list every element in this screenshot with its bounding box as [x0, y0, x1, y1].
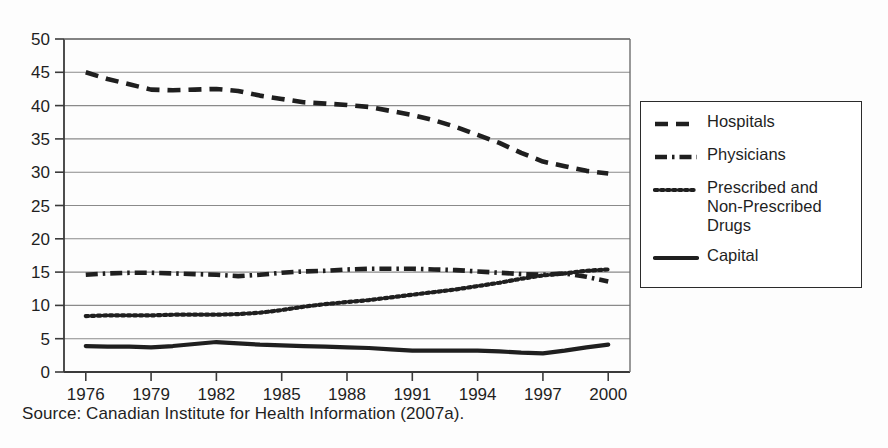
x-axis-tick-label: 1979 — [132, 385, 170, 400]
y-axis-tick-label: 10 — [31, 296, 50, 315]
x-axis-tick-labels: 197619791982198519881991199419972000 — [67, 385, 627, 400]
y-axis-tick-label: 40 — [31, 97, 50, 116]
data-series-group — [86, 72, 608, 353]
legend-item[interactable]: Physicians — [653, 145, 853, 167]
chart-legend: HospitalsPhysiciansPrescribed and Non-Pr… — [640, 101, 862, 288]
y-axis-tick-label: 30 — [31, 163, 50, 182]
x-axis-tick-label: 1988 — [328, 385, 366, 400]
y-axis-tick-label: 50 — [31, 30, 50, 49]
series-line-hospitals — [86, 72, 608, 173]
y-axis-tick-label: 20 — [31, 230, 50, 249]
series-line-capital — [86, 342, 608, 353]
dashed-line-sample-icon — [653, 114, 699, 134]
y-axis-tick-label: 15 — [31, 263, 50, 282]
x-axis-tick-label: 1976 — [67, 385, 105, 400]
legend-item-label: Hospitals — [707, 112, 775, 131]
legend-item[interactable]: Prescribed and Non-Prescribed Drugs — [653, 178, 853, 235]
y-axis-tick-label: 45 — [31, 63, 50, 82]
x-axis-tick-label: 1997 — [524, 385, 562, 400]
gridlines — [64, 39, 630, 339]
y-axis-tick-label: 5 — [41, 330, 50, 349]
legend-item[interactable]: Hospitals — [653, 112, 853, 134]
legend-item-label: Physicians — [707, 145, 786, 164]
x-axis-tick-label: 1982 — [197, 385, 235, 400]
legend-item-list: HospitalsPhysiciansPrescribed and Non-Pr… — [653, 112, 853, 279]
x-axis-ticks — [86, 372, 608, 381]
legend-item-label: Prescribed and Non-Prescribed Drugs — [707, 178, 853, 235]
legend-item[interactable]: Capital — [653, 246, 853, 268]
series-line-prescribed-and-non-prescribed-drugs — [86, 269, 608, 316]
source-caption: Source: Canadian Institute for Health In… — [22, 404, 464, 424]
x-axis-tick-label: 1991 — [393, 385, 431, 400]
legend-item-label: Capital — [707, 246, 758, 265]
y-axis-tick-label: 35 — [31, 130, 50, 149]
y-axis-tick-label: 25 — [31, 197, 50, 216]
y-axis-tick-label: 0 — [41, 363, 50, 382]
x-axis-tick-label: 1994 — [459, 385, 497, 400]
dash-dot-line-sample-icon — [653, 147, 699, 167]
solid-line-sample-icon — [653, 248, 699, 268]
x-axis-tick-label: 2000 — [589, 385, 627, 400]
figure-container: 05101520253035404550 1976197919821985198… — [0, 0, 888, 448]
y-axis-tick-labels: 05101520253035404550 — [31, 30, 50, 382]
dotted-line-sample-icon — [653, 180, 699, 200]
x-axis-tick-label: 1985 — [263, 385, 301, 400]
y-axis-ticks — [55, 39, 64, 372]
